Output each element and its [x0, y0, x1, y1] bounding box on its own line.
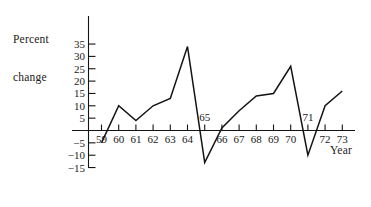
y-tick-label: −10: [68, 149, 86, 161]
x-tick-label: 70: [285, 133, 297, 145]
x-tick-label: 64: [182, 133, 194, 145]
x-tick-label: 72: [320, 133, 331, 145]
x-tick-label: 61: [130, 133, 141, 145]
y-axis-ticks: [89, 44, 96, 168]
y-tick-label: 30: [74, 50, 86, 62]
y-tick-label: 35: [74, 38, 86, 50]
y-tick-label: 10: [74, 100, 86, 112]
x-tick-label: 69: [268, 133, 280, 145]
x-tick-label: 62: [148, 133, 159, 145]
x-tick-label: 73: [337, 133, 349, 145]
y-tick-label: 5: [80, 112, 86, 124]
x-tick-label: 68: [251, 133, 263, 145]
x-tick-label: 67: [234, 133, 246, 145]
x-tick-label: 63: [165, 133, 177, 145]
y-tick-label: 25: [74, 63, 86, 75]
x-tick-label: 71: [302, 111, 313, 123]
y-axis: −15−10−55101520253035: [68, 16, 96, 174]
x-tick-label: 65: [199, 111, 211, 123]
x-tick-label: 60: [113, 133, 125, 145]
y-tick-label: 15: [74, 87, 86, 99]
y-tick-label: −5: [73, 137, 85, 149]
data-series-line: [102, 47, 343, 163]
y-tick-label: −15: [68, 162, 86, 174]
y-tick-label: 20: [74, 75, 86, 87]
percent-change-line-chart: Percent change Year −15−10−5510152025303…: [0, 0, 371, 207]
chart-plot-area: −15−10−55101520253035 596061626364656667…: [0, 0, 371, 207]
y-axis-tick-labels: −15−10−55101520253035: [68, 38, 86, 174]
